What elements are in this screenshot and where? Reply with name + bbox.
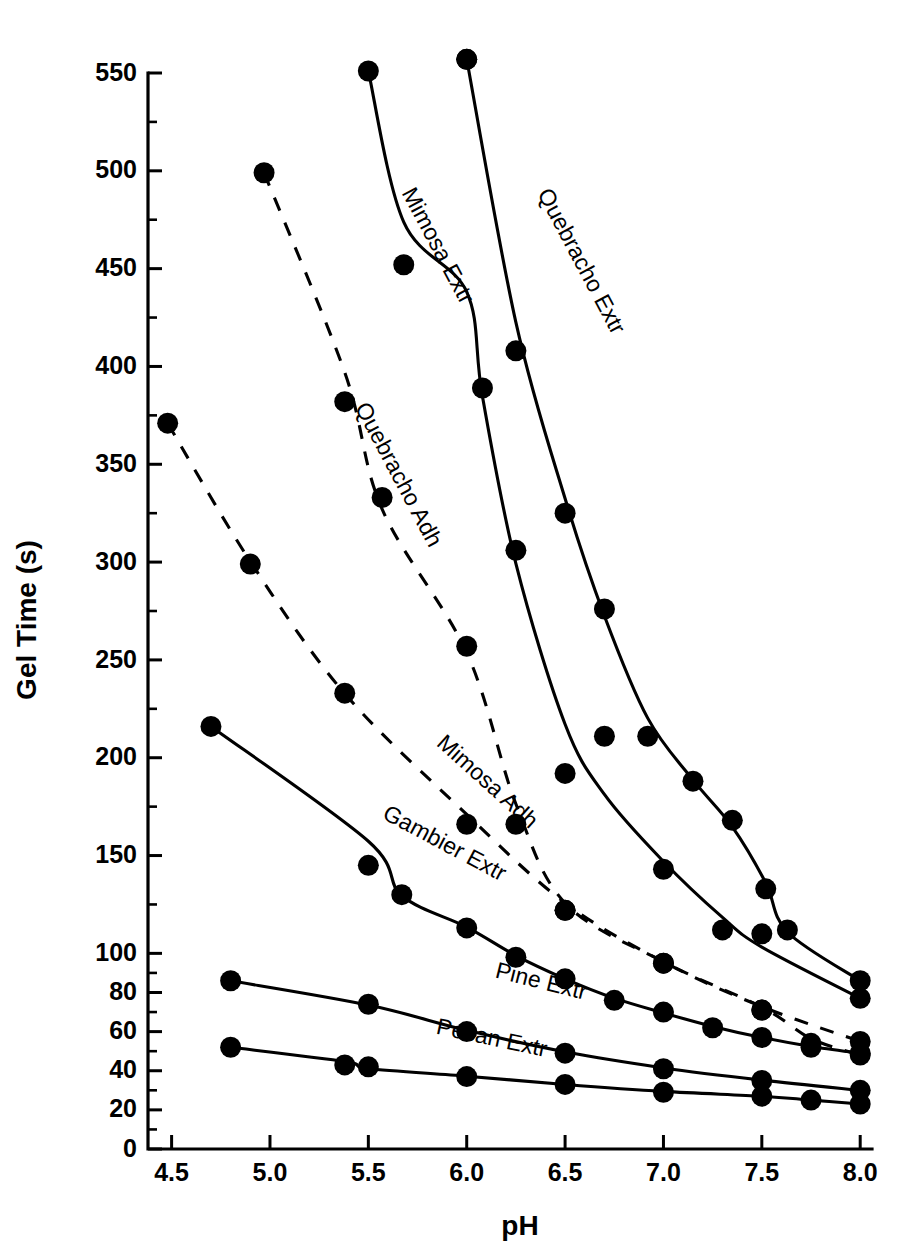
data-point [751,923,772,944]
y-tick-label: 100 [95,938,137,966]
data-point [653,953,674,974]
data-point [456,636,477,657]
data-point [653,1082,674,1103]
data-point [702,1017,723,1038]
x-axis-title: pH [501,1210,538,1241]
x-tick-label: 4.5 [154,1158,189,1186]
data-point [801,1090,822,1111]
data-point [777,919,798,940]
x-tick-label: 5.0 [253,1158,288,1186]
data-point [594,726,615,747]
data-point [358,61,379,82]
data-point [801,1037,822,1058]
data-point [456,1066,477,1087]
series-labels: Quebracho ExtrMimosa ExtrQuebracho AdhMi… [350,183,631,1062]
axes [148,73,872,1149]
x-tick-label: 5.5 [351,1158,386,1186]
data-point [712,919,733,940]
x-tick-label: 7.0 [646,1158,681,1186]
y-tick-label: 20 [109,1094,137,1122]
series-label-gambier-extr: Gambier Extr [379,799,511,886]
series-label-mimosa-extr: Mimosa Extr [397,183,480,308]
y-tick-label: 60 [109,1016,137,1044]
data-point [604,990,625,1011]
data-point [456,814,477,835]
y-tick-label: 40 [109,1055,137,1083]
data-point [358,994,379,1015]
y-tick-label: 80 [109,977,137,1005]
data-point [220,1037,241,1058]
data-point [358,855,379,876]
data-point [334,683,355,704]
y-tick-label: 150 [95,840,137,868]
data-point [653,1058,674,1079]
data-point [755,878,776,899]
data-markers [157,49,871,1115]
data-point [751,1086,772,1107]
y-tick-label: 350 [95,449,137,477]
data-point [157,413,178,434]
x-tick-label: 8.0 [843,1158,878,1186]
x-tick-label: 6.5 [548,1158,583,1186]
series-label-pine-extr: Pine Extr [493,957,590,1005]
axis-lines [148,73,872,1149]
series-label-pecan-extr: Pecan Extr [434,1013,550,1062]
y-tick-label: 250 [95,645,137,673]
y-tick-label: 500 [95,155,137,183]
data-point [751,1027,772,1048]
gel-time-vs-ph-chart: 0204060801001502002503003504004505005504… [0,0,898,1251]
data-point [555,1074,576,1095]
data-point [653,859,674,880]
y-tick-label: 0 [123,1134,137,1162]
series-label-quebracho-adh: Quebracho Adh [350,398,448,551]
data-point [456,49,477,70]
data-point [372,487,393,508]
data-point [472,377,493,398]
y-axis-title: Gel Time (s) [11,540,42,700]
series-label-quebracho-extr: Quebracho Extr [533,184,632,339]
x-tick-label: 7.5 [744,1158,779,1186]
data-point [751,1000,772,1021]
series-label-mimosa-adh: Mimosa Adh [432,729,543,833]
data-point [653,1002,674,1023]
data-point [850,988,871,1009]
data-point [456,917,477,938]
data-point [391,884,412,905]
chart-canvas: 0204060801001502002503003504004505005504… [0,0,898,1251]
x-tick-label: 6.0 [449,1158,484,1186]
data-point [334,1054,355,1075]
data-point [555,1043,576,1064]
y-tick-label: 200 [95,742,137,770]
data-point [637,726,658,747]
data-point [555,503,576,524]
y-tick-label: 450 [95,253,137,281]
data-point [358,1056,379,1077]
y-tick-label: 550 [95,58,137,86]
data-point [594,599,615,620]
data-point [722,810,743,831]
series-curve-quebracho-extr [467,59,860,980]
data-point [505,340,526,361]
data-point [555,763,576,784]
data-point [220,970,241,991]
y-tick-label: 300 [95,547,137,575]
y-tick-label: 400 [95,351,137,379]
data-point [682,771,703,792]
data-point [254,162,275,183]
axis-ticks [148,73,860,1149]
data-point [555,900,576,921]
data-point [505,540,526,561]
data-point [200,716,221,737]
data-point [850,1043,871,1064]
data-point [240,554,261,575]
data-point [393,254,414,275]
data-point [850,1094,871,1115]
